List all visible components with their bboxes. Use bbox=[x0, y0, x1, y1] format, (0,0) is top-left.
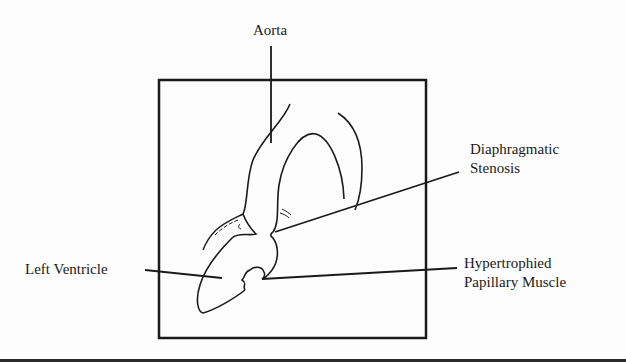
left-ventricle-leader-line bbox=[145, 270, 222, 278]
label-aorta: Aorta bbox=[253, 22, 287, 39]
aorta-outer-contour bbox=[243, 104, 290, 214]
label-papillary-line1: Hypertrophied bbox=[464, 255, 551, 272]
heart-illustration bbox=[0, 0, 626, 362]
aorta-inner-arch bbox=[273, 134, 344, 232]
descending-aorta-contour bbox=[338, 113, 362, 210]
label-stenosis-line2: Stenosis bbox=[470, 160, 520, 177]
stenosis-hatch bbox=[280, 209, 291, 218]
frame-box bbox=[159, 80, 426, 338]
papillary-leader-line bbox=[262, 268, 457, 279]
label-stenosis-line1: Diaphragmatic bbox=[470, 141, 559, 158]
left-atrium-fragment bbox=[203, 214, 243, 250]
stenosis-leader-line bbox=[275, 172, 459, 232]
papillary-muscle bbox=[242, 267, 265, 290]
label-papillary-line2: Papillary Muscle bbox=[464, 274, 566, 291]
label-left-ventricle: Left Ventricle bbox=[25, 261, 108, 278]
diagram-canvas: Aorta Diaphragmatic Stenosis Left Ventri… bbox=[0, 0, 626, 362]
atrium-tick bbox=[239, 224, 241, 229]
